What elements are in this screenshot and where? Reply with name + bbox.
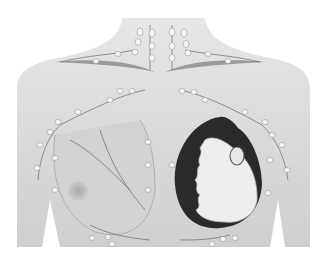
torso <box>17 18 310 247</box>
anatomy-illustration: Illustration of female chest showing lym… <box>0 0 325 263</box>
left-nipple <box>68 181 88 201</box>
chest-lymphatic-diagram <box>0 0 325 263</box>
right-nipple-cross-section <box>230 147 244 165</box>
